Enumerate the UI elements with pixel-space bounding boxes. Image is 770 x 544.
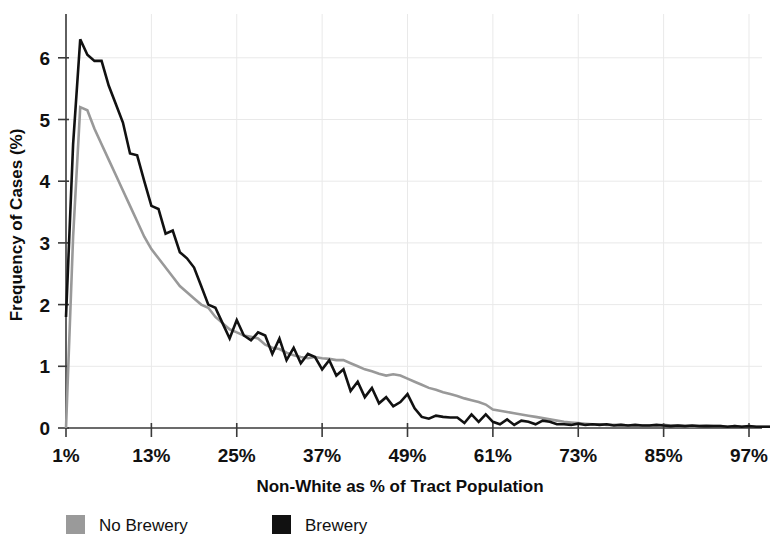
- legend-label: No Brewery: [99, 516, 188, 535]
- x-tick-label: 1%: [52, 445, 80, 466]
- x-tick-label: 97%: [730, 445, 768, 466]
- x-tick-label: 25%: [218, 445, 256, 466]
- y-tick-label: 6: [39, 48, 50, 69]
- y-tick-label: 3: [39, 233, 50, 254]
- x-tick-label: 13%: [132, 445, 170, 466]
- y-axis-ticks: 0123456: [39, 48, 69, 439]
- legend-swatch-black-square: [272, 515, 291, 534]
- legend-swatch-gray-square: [66, 515, 85, 534]
- series-line-no-brewery: [66, 107, 770, 428]
- gridlines: [66, 14, 762, 428]
- y-axis-title: Frequency of Cases (%): [7, 129, 26, 322]
- chart-figure: 0123456 1%13%25%37%49%61%73%85%97% Non-W…: [0, 0, 770, 544]
- y-tick-label: 1: [39, 356, 50, 377]
- y-tick-label: 2: [39, 295, 50, 316]
- y-tick-label: 4: [39, 171, 50, 192]
- y-tick-label: 5: [39, 110, 50, 131]
- data-series-group: [66, 39, 770, 428]
- chart-legend: No BreweryBrewery: [66, 515, 368, 535]
- frequency-distribution-chart: 0123456 1%13%25%37%49%61%73%85%97% Non-W…: [0, 0, 770, 544]
- x-tick-label: 49%: [388, 445, 426, 466]
- y-tick-label: 0: [39, 418, 50, 439]
- series-line-brewery: [66, 39, 770, 426]
- x-axis-ticks: 1%13%25%37%49%61%73%85%97%: [52, 423, 768, 466]
- x-tick-label: 37%: [303, 445, 341, 466]
- x-tick-label: 85%: [645, 445, 683, 466]
- legend-label: Brewery: [305, 516, 368, 535]
- x-tick-label: 73%: [559, 445, 597, 466]
- x-axis-title: Non-White as % of Tract Population: [256, 477, 543, 496]
- x-tick-label: 61%: [474, 445, 512, 466]
